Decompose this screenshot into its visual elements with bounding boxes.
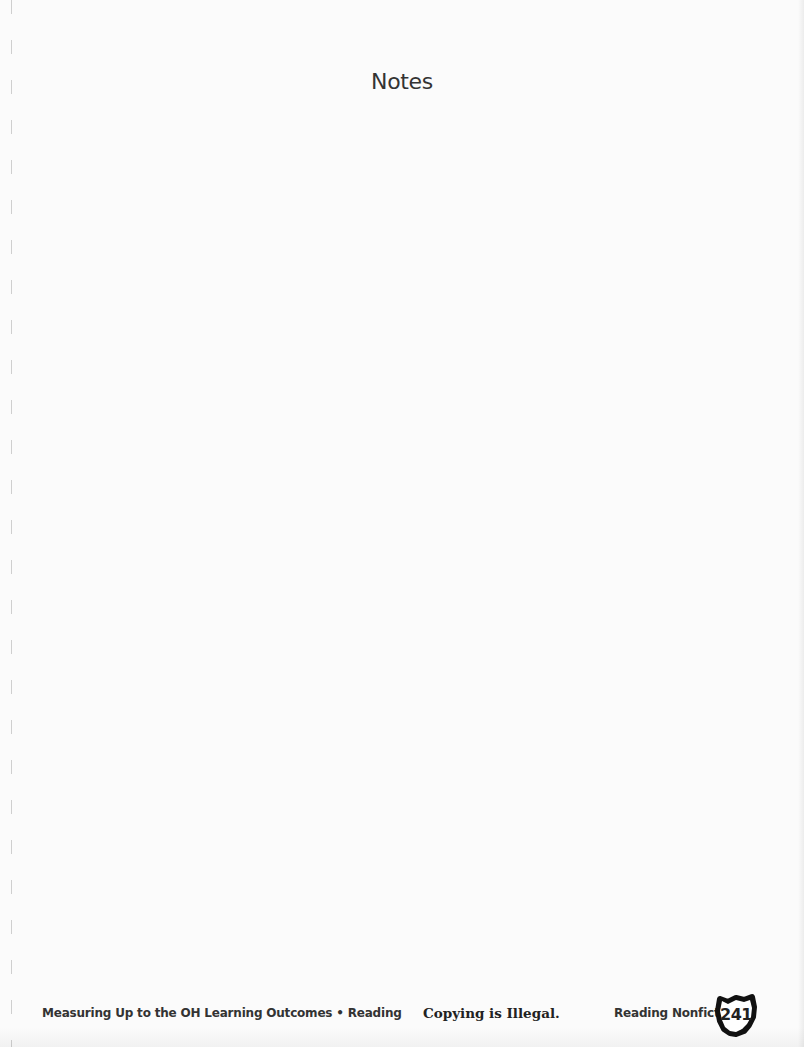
- page-number-badge: 241: [714, 993, 758, 1037]
- footer-copyright-notice: Copying is Illegal.: [423, 1005, 560, 1021]
- page-number: 241: [714, 1005, 758, 1024]
- page-binding-edge: [11, 0, 12, 1047]
- page-title: Notes: [0, 69, 804, 94]
- footer-book-title: Measuring Up to the OH Learning Outcomes…: [42, 1006, 402, 1020]
- page-bottom-shadow: [0, 1027, 804, 1047]
- page-right-shadow: [798, 0, 804, 1047]
